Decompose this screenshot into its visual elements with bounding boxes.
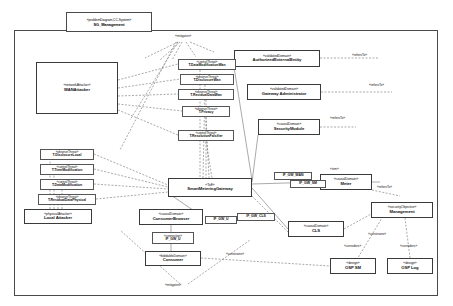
domain-name: Consumer: [163, 258, 183, 262]
threat-t-resolution-falsifier[interactable]: «controlThreat» T.ResolutionFalsifier: [178, 130, 234, 141]
edge-label-constrains-1: «constrains»: [226, 253, 244, 256]
threat-t-privacy[interactable]: «observeThreat» T.Privacy: [182, 106, 230, 117]
edge-label-refers-to-2: «refersTo»: [369, 84, 384, 87]
edge-label-considers-1: «considers»: [344, 245, 361, 248]
interface-if-gw-u-connection[interactable]: «connection» IF_GW_U: [152, 232, 194, 244]
threat-t-residualdata-wan[interactable]: «observeThreat» T.ResidualDataWan: [178, 89, 234, 100]
threat-name: T.DisclosureLocal: [53, 154, 82, 158]
domain-security-module[interactable]: «causalDomain» SecurityModule: [258, 119, 320, 135]
threat-t-disclosure-wan[interactable]: «observeThreat» T.DisclosureWan: [180, 74, 234, 85]
problem-diagram-canvas: «problemDiagram,CC-System» SG_Management: [0, 0, 453, 306]
domain-name: OSP SM: [345, 266, 361, 270]
domain-name: Local Attacker: [44, 216, 72, 220]
domain-osp-sm[interactable]: «design» OSP SM: [330, 258, 376, 274]
domain-meter[interactable]: «causalDomain» Meter: [320, 174, 372, 190]
threat-name: T.TimeModification: [52, 169, 83, 173]
interface-if-gw-u[interactable]: IF_GW_U: [205, 216, 237, 224]
threat-t-disclosure-local[interactable]: «observeThreat» T.DisclosureLocal: [40, 149, 94, 160]
edge-label-refers-to-1: «refersTo»: [352, 54, 367, 57]
domain-name: Gateway Administrator: [262, 92, 307, 96]
domain-name: SecurityModule: [274, 127, 304, 131]
domain-osp-log[interactable]: «design» OSP Log: [387, 258, 433, 274]
domain-name: CLS: [312, 229, 320, 233]
edge-label-considers-2: «considers»: [400, 245, 417, 248]
threat-name: T.DataModificationWan: [188, 64, 225, 68]
domain-name: ConsumerBrowser: [153, 217, 190, 221]
threat-name: T.ResidualDataPhysical: [48, 199, 86, 203]
interface-label: IF_GW_SM: [299, 182, 317, 186]
interface-label: IF_GW_CLS: [246, 215, 266, 219]
interface-if-gw-cls[interactable]: IF_GW_CLS: [237, 213, 275, 221]
threat-name: T.ResidualDataWan: [190, 94, 221, 98]
threat-t-datamodification[interactable]: «controlThreat» T.DataModification: [40, 179, 94, 190]
domain-consumer[interactable]: «biddableDomain» Consumer: [145, 251, 201, 266]
domain-smart-metering-gateway[interactable]: «ToE» SmartMeteringGateway: [168, 178, 252, 197]
threat-name: T.Privacy: [199, 111, 214, 115]
interface-if-gw-sm[interactable]: IF_GW_SM: [290, 180, 326, 188]
threat-name: T.ResolutionFalsifier: [189, 135, 222, 139]
threat-t-timemodification[interactable]: «controlThreat» T.TimeModification: [40, 164, 94, 175]
domain-name: WANAttacker: [64, 88, 90, 92]
interface-if-gw-wan[interactable]: IF_GW_WAN: [274, 172, 312, 180]
threat-name: T.DisclosureWan: [193, 79, 220, 83]
interface-label: IF_GW_WAN: [283, 174, 304, 178]
edge-label-stm: «stm»: [330, 168, 339, 171]
mitigates-top-label: «mitigates»: [175, 35, 191, 38]
domain-name: OSP Log: [401, 266, 418, 270]
domain-name: Meter: [341, 182, 352, 186]
domain-consumer-browser[interactable]: «causalDomain» ConsumerBrowser: [139, 209, 203, 225]
domain-wan-attacker[interactable]: «networkAttacker» WANAttacker: [36, 62, 118, 114]
domain-name: AuthorizedExternalEntity: [253, 58, 302, 62]
edge-label-refers-to-4: «refersTo»: [377, 186, 392, 189]
domain-name: SmartMeteringGateway: [187, 187, 233, 191]
threat-name: T.DataModification: [52, 184, 82, 188]
threat-t-residualdata-physical[interactable]: «observeThreat» T.ResidualDataPhysical: [38, 194, 96, 205]
domain-cls[interactable]: «causalDomain» CLS: [288, 221, 344, 237]
domain-name: Management: [389, 210, 414, 214]
edge-label-refers-to-3: «refersTo»: [330, 117, 345, 120]
domain-management[interactable]: «securityObjective» Management: [371, 202, 433, 218]
threat-t-datamodification-wan[interactable]: «controlThreat» T.DataModificationWan: [178, 59, 236, 70]
interface-label: IF_GW_U: [165, 238, 180, 242]
domain-gateway-administrator[interactable]: «validatedDomain» Gateway Administrator: [247, 84, 321, 100]
interface-label: IF_GW_U: [213, 218, 228, 222]
mitigates-bottom-label: «mitigates»: [165, 284, 181, 287]
edge-label-constrains-2: «constrains»: [368, 233, 386, 236]
domain-authorized-external-entity[interactable]: «validatedDomain» AuthorizedExternalEnti…: [234, 50, 320, 67]
domain-local-attacker[interactable]: «physicalAttacker» Local Attacker: [24, 209, 92, 224]
